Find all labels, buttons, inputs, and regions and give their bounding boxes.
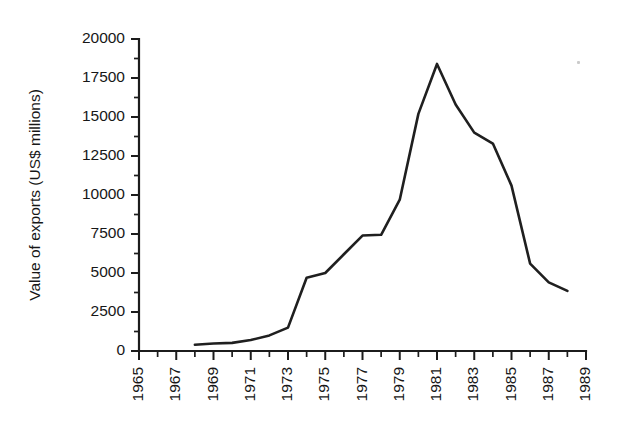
y-tick-label: 7500 bbox=[91, 224, 126, 241]
axis-spines bbox=[139, 39, 586, 351]
y-axis-ticks bbox=[131, 39, 139, 351]
y-tick-label: 15000 bbox=[82, 107, 125, 124]
series-line bbox=[195, 64, 568, 345]
x-tick-label: 1981 bbox=[427, 367, 444, 401]
x-tick-label: 1985 bbox=[502, 367, 519, 401]
y-tick-label: 17500 bbox=[82, 68, 125, 85]
x-tick-label: 1983 bbox=[464, 367, 481, 401]
y-axis-tick-labels: 02500500075001000012500150001750020000 bbox=[82, 29, 125, 358]
x-tick-label: 1967 bbox=[166, 367, 183, 401]
y-axis-title: Value of exports (US$ millions) bbox=[26, 89, 43, 301]
axes bbox=[139, 39, 586, 351]
data-series bbox=[195, 64, 568, 345]
scan-artifact-speck bbox=[577, 61, 580, 64]
x-tick-label: 1989 bbox=[576, 367, 593, 401]
x-tick-label: 1975 bbox=[315, 367, 332, 401]
x-tick-label: 1969 bbox=[204, 367, 221, 401]
x-tick-label: 1973 bbox=[278, 367, 295, 401]
y-tick-label: 0 bbox=[116, 341, 125, 358]
x-tick-label: 1965 bbox=[129, 367, 146, 401]
y-tick-label: 10000 bbox=[82, 185, 125, 202]
x-axis-ticks bbox=[139, 351, 586, 360]
y-tick-label: 20000 bbox=[82, 29, 125, 46]
y-tick-label: 5000 bbox=[91, 263, 126, 280]
y-axis-title-text: Value of exports (US$ millions) bbox=[26, 89, 43, 301]
x-tick-label: 1987 bbox=[539, 367, 556, 401]
x-tick-label: 1971 bbox=[241, 367, 258, 401]
exports-line-chart: 02500500075001000012500150001750020000 1… bbox=[0, 0, 634, 430]
y-tick-label: 2500 bbox=[91, 302, 126, 319]
y-tick-label: 12500 bbox=[82, 146, 125, 163]
x-axis-tick-labels: 1965196719691971197319751977197919811983… bbox=[129, 367, 593, 401]
x-tick-label: 1977 bbox=[353, 367, 370, 401]
x-tick-label: 1979 bbox=[390, 367, 407, 401]
chart-figure: 02500500075001000012500150001750020000 1… bbox=[0, 0, 634, 430]
